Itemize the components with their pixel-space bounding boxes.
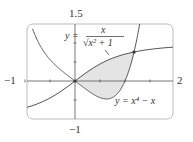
label-leader-line (105, 50, 109, 55)
y-bottom-tick-label: −1 (69, 124, 81, 135)
shaded-region (75, 52, 134, 99)
x-right-tick-label: 2 (177, 75, 183, 86)
x-left-tick-label: −1 (4, 75, 16, 86)
chart-plot (0, 0, 193, 142)
curve1-label-lhs: y = (65, 31, 79, 41)
y-top-tick-label: 1.5 (69, 8, 83, 19)
curve2-label: y = x⁴ − x (115, 96, 155, 106)
curve1-label-numerator: x (101, 25, 105, 35)
curve1-label-denominator: √x² + 1 (83, 38, 113, 48)
intersection-point (73, 79, 76, 82)
intersection-point (132, 51, 135, 54)
